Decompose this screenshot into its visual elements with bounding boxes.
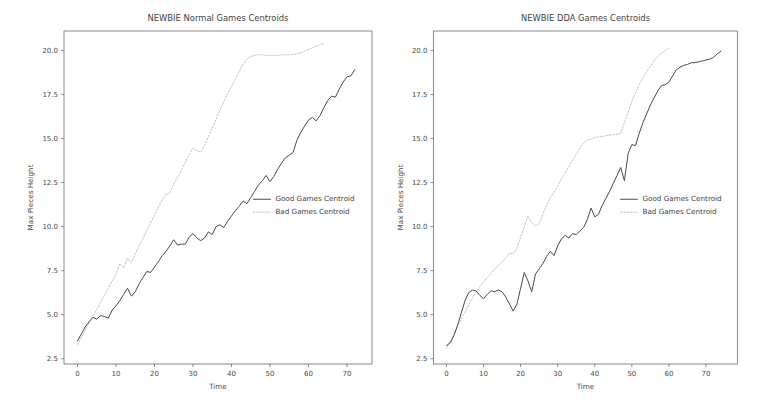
x-tick-label: 70 bbox=[343, 370, 352, 378]
legend: Good Games CentroidBad Games Centroid bbox=[253, 194, 354, 216]
y-tick-label: 15.0 bbox=[42, 135, 58, 143]
x-tick-label: 20 bbox=[516, 370, 525, 378]
x-tick-label: 30 bbox=[553, 370, 562, 378]
y-tick-label: 12.5 bbox=[411, 179, 427, 187]
chart-panel-dda: NEWBIE DDA Games Centroids2.55.07.510.01… bbox=[383, 0, 765, 414]
legend-label-bad-games-centroid: Bad Games Centroid bbox=[275, 207, 349, 216]
x-tick-label: 0 bbox=[75, 370, 79, 378]
y-tick-label: 2.5 bbox=[47, 355, 58, 363]
x-tick-label: 50 bbox=[266, 370, 275, 378]
y-tick-label: 7.5 bbox=[47, 267, 58, 275]
y-tick-label: 20.0 bbox=[411, 47, 427, 55]
figure-container: NEWBIE Normal Games Centroids2.55.07.510… bbox=[0, 0, 765, 414]
y-tick-label: 17.5 bbox=[42, 91, 58, 99]
series-line-bad-games-centroid bbox=[446, 48, 668, 348]
x-tick-label: 50 bbox=[627, 370, 636, 378]
chart-title: NEWBIE Normal Games Centroids bbox=[148, 13, 289, 23]
x-tick-label: 40 bbox=[227, 370, 236, 378]
x-tick-label: 60 bbox=[304, 370, 313, 378]
x-tick-label: 60 bbox=[664, 370, 673, 378]
legend-label-good-games-centroid: Good Games Centroid bbox=[642, 194, 721, 203]
x-tick-label: 10 bbox=[479, 370, 488, 378]
series-line-good-games-centroid bbox=[77, 70, 354, 341]
y-tick-label: 2.5 bbox=[416, 355, 427, 363]
y-tick-label: 17.5 bbox=[411, 91, 427, 99]
x-tick-label: 10 bbox=[112, 370, 121, 378]
chart-title: NEWBIE DDA Games Centroids bbox=[520, 13, 649, 23]
y-tick-label: 5.0 bbox=[416, 311, 427, 319]
x-tick-label: 20 bbox=[150, 370, 159, 378]
chart-panel-normal: NEWBIE Normal Games Centroids2.55.07.510… bbox=[0, 0, 383, 414]
x-tick-label: 0 bbox=[444, 370, 448, 378]
y-tick-label: 10.0 bbox=[42, 223, 58, 231]
y-tick-label: 5.0 bbox=[47, 311, 58, 319]
x-axis-label: Time bbox=[575, 382, 594, 391]
x-tick-label: 40 bbox=[590, 370, 599, 378]
y-tick-label: 10.0 bbox=[411, 223, 427, 231]
y-tick-label: 20.0 bbox=[42, 47, 58, 55]
y-axis-label: Max Pieces Height bbox=[395, 164, 404, 230]
x-axis-label: Time bbox=[208, 382, 227, 391]
x-tick-label: 30 bbox=[189, 370, 198, 378]
y-tick-label: 12.5 bbox=[42, 179, 58, 187]
legend-label-bad-games-centroid: Bad Games Centroid bbox=[642, 207, 716, 216]
legend-label-good-games-centroid: Good Games Centroid bbox=[275, 194, 354, 203]
y-tick-label: 7.5 bbox=[416, 267, 427, 275]
legend: Good Games CentroidBad Games Centroid bbox=[620, 194, 721, 216]
y-tick-label: 15.0 bbox=[411, 135, 427, 143]
y-axis-label: Max Pieces Height bbox=[26, 164, 35, 230]
x-tick-label: 70 bbox=[701, 370, 710, 378]
